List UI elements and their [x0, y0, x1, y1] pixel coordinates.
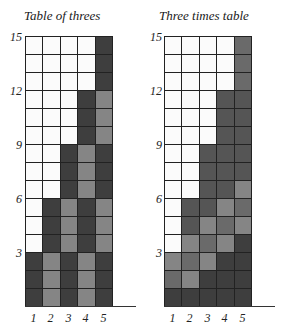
x-tick-4: 4 — [77, 311, 94, 326]
grid-cell — [95, 180, 113, 199]
grid-cell — [25, 108, 43, 127]
grid-cell — [216, 90, 234, 109]
grid-cell — [181, 270, 199, 289]
grid-cell — [234, 126, 252, 145]
grid-cell — [199, 234, 217, 253]
grid-cell — [164, 36, 182, 55]
grid-cell — [234, 234, 252, 253]
grid-cell — [42, 162, 60, 181]
grid-cell — [216, 72, 234, 91]
grid-cell — [164, 90, 182, 109]
x-tick-5: 5 — [95, 311, 112, 326]
grid-cell — [60, 180, 78, 199]
grid-cell — [164, 234, 182, 253]
grid-left — [25, 36, 112, 306]
grid-cell — [234, 54, 252, 73]
grid-cell — [199, 126, 217, 145]
y-tick-15: 15 — [142, 30, 162, 45]
grid-cell — [95, 252, 113, 271]
grid-cell — [216, 270, 234, 289]
grid-cell — [216, 234, 234, 253]
grid-cell — [25, 162, 43, 181]
grid-cell — [199, 72, 217, 91]
grid-cell — [181, 54, 199, 73]
y-tick-3: 3 — [2, 246, 22, 261]
grid-cell — [216, 162, 234, 181]
grid-cell — [77, 162, 95, 181]
grid-cell — [181, 288, 199, 307]
x-tick-3: 3 — [60, 311, 77, 326]
grid-cell — [199, 198, 217, 217]
grid-cell — [199, 36, 217, 55]
grid-cell — [199, 162, 217, 181]
grid-cell — [60, 252, 78, 271]
grid-cell — [42, 270, 60, 289]
grid-cell — [234, 180, 252, 199]
grid-cell — [199, 216, 217, 235]
grid-right — [164, 36, 251, 306]
grid-cell — [216, 252, 234, 271]
grid-cell — [164, 198, 182, 217]
grid-cell — [60, 162, 78, 181]
grid-cell — [77, 234, 95, 253]
chart-three-times-table: Three times table 15 12 9 6 3 1 2 3 4 5 — [140, 0, 290, 330]
grid-cell — [77, 180, 95, 199]
grid-cell — [199, 144, 217, 163]
x-tick-1: 1 — [25, 311, 42, 326]
grid-cell — [77, 90, 95, 109]
grid-cell — [181, 252, 199, 271]
grid-cell — [181, 72, 199, 91]
grid-cell — [199, 288, 217, 307]
grid-cell — [95, 126, 113, 145]
grid-cell — [77, 198, 95, 217]
x-axis-line — [25, 306, 136, 307]
x-axis-line — [164, 306, 275, 307]
grid-cell — [216, 180, 234, 199]
chart-title: Three times table — [159, 8, 249, 24]
y-tick-6: 6 — [142, 192, 162, 207]
grid-cell — [234, 162, 252, 181]
grid-cell — [181, 162, 199, 181]
grid-cell — [77, 270, 95, 289]
grid-cell — [95, 90, 113, 109]
grid-cell — [42, 90, 60, 109]
x-tick-5: 5 — [234, 311, 251, 326]
y-tick-3: 3 — [142, 246, 162, 261]
y-tick-12: 12 — [142, 84, 162, 99]
grid-cell — [164, 162, 182, 181]
grid-cell — [164, 54, 182, 73]
grid-cell — [181, 126, 199, 145]
grid-cell — [95, 54, 113, 73]
y-tick-6: 6 — [2, 192, 22, 207]
grid-cell — [234, 216, 252, 235]
grid-cell — [42, 180, 60, 199]
x-tick-2: 2 — [42, 311, 59, 326]
grid-cell — [199, 90, 217, 109]
y-tick-15: 15 — [2, 30, 22, 45]
x-tick-4: 4 — [216, 311, 233, 326]
grid-cell — [60, 54, 78, 73]
grid-cell — [216, 144, 234, 163]
grid-cell — [60, 234, 78, 253]
chart-table-of-threes: Table of threes 15 12 9 6 3 1 2 3 4 5 — [0, 0, 145, 330]
grid-cell — [95, 270, 113, 289]
grid-cell — [95, 36, 113, 55]
grid-cell — [164, 288, 182, 307]
grid-cell — [234, 198, 252, 217]
grid-cell — [216, 108, 234, 127]
grid-cell — [42, 198, 60, 217]
y-tick-12: 12 — [2, 84, 22, 99]
grid-cell — [234, 288, 252, 307]
grid-cell — [95, 108, 113, 127]
x-tick-1: 1 — [164, 311, 181, 326]
grid-cell — [60, 108, 78, 127]
grid-cell — [25, 90, 43, 109]
y-tick-9: 9 — [142, 138, 162, 153]
grid-cell — [25, 72, 43, 91]
grid-cell — [25, 144, 43, 163]
grid-cell — [25, 234, 43, 253]
grid-cell — [95, 288, 113, 307]
grid-cell — [234, 144, 252, 163]
grid-cell — [216, 54, 234, 73]
grid-cell — [60, 126, 78, 145]
